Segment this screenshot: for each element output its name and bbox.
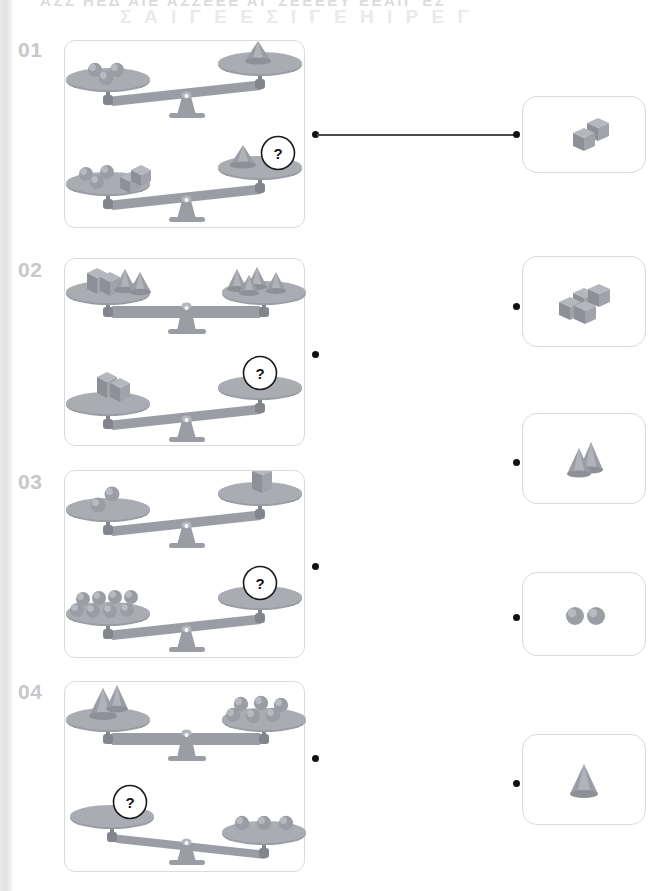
scale-top-04: [66, 685, 306, 761]
option-card-2[interactable]: [522, 256, 646, 347]
question-mark-01: ?: [273, 145, 282, 162]
puzzle-connector-dot-02[interactable]: [312, 351, 319, 358]
scale-bottom-04: ?: [70, 786, 306, 866]
puzzle-card-03[interactable]: ?: [64, 470, 305, 658]
question-mark-02: ?: [255, 365, 264, 382]
page-edge-divider: [11, 0, 12, 891]
scale-top-01: [66, 41, 302, 118]
puzzle-card-04[interactable]: ?: [64, 681, 305, 872]
puzzle-number-02: 02: [18, 258, 42, 282]
option-connector-dot-4[interactable]: [513, 614, 520, 621]
puzzle-connector-dot-03[interactable]: [312, 563, 319, 570]
balance-scales-03: ?: [65, 471, 306, 659]
option-connector-dot-2[interactable]: [513, 303, 520, 310]
balance-scales-02: ?: [65, 259, 306, 447]
option-card-1[interactable]: [522, 96, 646, 173]
option-shape-one-cone: [523, 735, 647, 826]
puzzle-card-01[interactable]: ?: [64, 40, 305, 228]
puzzle-connector-dot-04[interactable]: [312, 755, 319, 762]
option-card-4[interactable]: [522, 572, 646, 656]
question-mark-04: ?: [125, 794, 134, 811]
scale-bottom-02: ?: [66, 357, 302, 443]
option-connector-dot-5[interactable]: [513, 780, 520, 787]
option-shape-two-cubes: [523, 97, 647, 174]
option-connector-dot-1[interactable]: [513, 131, 520, 138]
puzzle-number-04: 04: [18, 680, 42, 704]
scale-bottom-03: ?: [66, 567, 302, 653]
puzzle-card-02[interactable]: ?: [64, 258, 305, 446]
page-edge-strip: [0, 0, 11, 891]
balance-scales-04: ?: [65, 682, 306, 873]
drawn-connector-01: [317, 134, 517, 136]
scale-top-03: [66, 471, 302, 548]
header-ghost-line-2: Σ Α Ι Γ Ε Ε Σ Ι Γ Ε Η Ι Ρ Ε Γ: [120, 6, 590, 26]
puzzle-number-03: 03: [18, 470, 42, 494]
option-card-5[interactable]: [522, 734, 646, 825]
scale-top-02: [66, 267, 306, 334]
puzzle-number-01: 01: [18, 38, 42, 62]
option-shape-four-cubes: [523, 257, 647, 348]
balance-scales-01: ?: [65, 41, 306, 229]
question-mark-03: ?: [255, 575, 264, 592]
scale-bottom-01: ?: [66, 137, 302, 223]
option-shape-two-spheres: [523, 573, 647, 657]
option-shape-two-cones: [523, 414, 647, 505]
option-connector-dot-3[interactable]: [513, 459, 520, 466]
option-card-3[interactable]: [522, 413, 646, 504]
